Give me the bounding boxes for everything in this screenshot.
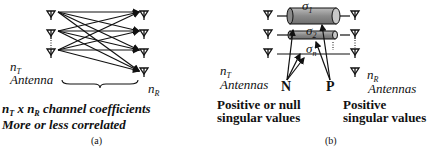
- rx-antennas-label-b: Antennas: [368, 82, 416, 95]
- tx-antenna-icon: [264, 30, 272, 39]
- sigma-2-label: σ2: [306, 24, 316, 40]
- p-description-line2: singular values: [343, 111, 426, 124]
- rx-count-label: nR: [148, 82, 159, 98]
- rx-antenna-icon: [351, 11, 359, 20]
- tx-antenna-label: Antenna: [10, 73, 53, 86]
- rx-antenna-icon: [140, 30, 148, 39]
- rx-antenna-icon: [140, 11, 148, 20]
- rx-antenna-icon: [351, 68, 359, 77]
- n-description-line2: singular values: [217, 111, 300, 124]
- p-label: P: [326, 80, 335, 94]
- tx-antenna-icon: [47, 30, 55, 39]
- tx-antenna-icon: [264, 11, 272, 20]
- panel-a-label: (a): [91, 136, 102, 146]
- tx-antenna-icon: [47, 49, 55, 58]
- tx-antennas-label-b: Antennas: [220, 78, 268, 91]
- rx-antenna-icon: [351, 49, 359, 58]
- rx-antenna-icon: [140, 68, 148, 77]
- channel-coefficients-caption: nT x nR channel coefficients: [2, 102, 151, 118]
- tx-antenna-icon: [47, 11, 55, 20]
- correlation-caption: More or less correlated: [2, 118, 126, 131]
- sigma-n-label: σn: [306, 42, 316, 58]
- channel-links: [58, 12, 139, 71]
- rx-antenna-icon: [351, 30, 359, 39]
- n-label: N: [281, 80, 291, 94]
- panel-a-diagram: [47, 11, 148, 88]
- sigma-1-label: σ1: [302, 0, 312, 15]
- sigma-1-cylinder: [277, 8, 350, 24]
- panel-b-label: (b): [325, 136, 337, 146]
- tx-antenna-icon: [264, 49, 272, 58]
- rx-antenna-icon: [140, 49, 148, 58]
- brace: [62, 80, 138, 88]
